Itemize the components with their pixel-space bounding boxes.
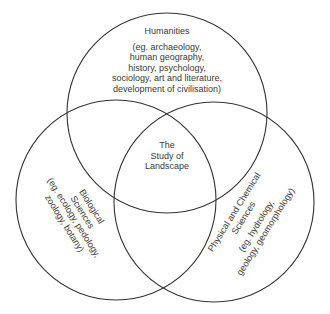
study-of-landscape-label: The Study of Landscape — [145, 140, 189, 172]
humanities-detail-line: sociology, art and literature, — [112, 73, 222, 84]
venn-diagram: Humanities (eg. archaeology, human geogr… — [0, 0, 330, 314]
humanities-detail-line: development of civilisation) — [112, 84, 222, 95]
center-line: Study of — [145, 151, 189, 162]
center-line: Landscape — [145, 161, 189, 172]
humanities-detail-line: history, psychology, — [112, 63, 222, 74]
humanities-detail-line: human geography, — [112, 52, 222, 63]
humanities-label: Humanities (eg. archaeology, human geogr… — [112, 26, 222, 95]
humanities-title: Humanities — [112, 26, 222, 37]
center-line: The — [145, 140, 189, 151]
humanities-detail-line: (eg. archaeology, — [112, 42, 222, 53]
